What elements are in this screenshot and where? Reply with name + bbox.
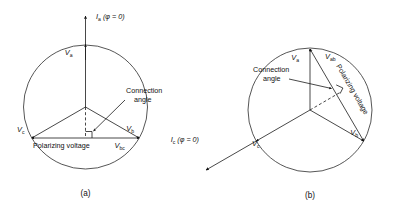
panel-b-right-angle-marker — [336, 85, 343, 94]
panel-b-label-va: Va — [291, 53, 299, 63]
panel-b-current-label: Ic (φ = 0) — [171, 135, 199, 145]
panel-b-phasor-vc — [256, 110, 310, 141]
panel-a-current-label: Ia (φ = 0) — [96, 12, 125, 22]
phasor-diagram-svg: Ia (φ = 0) Va Vb Vc Vbc Polarizing volta… — [0, 0, 397, 206]
panel-b-perpendicular-dashed — [310, 92, 341, 110]
panel-a-caption: (a) — [80, 189, 90, 198]
panel-b-caption: (b) — [305, 191, 315, 200]
panel-a-connection-angle-line1: Connection — [126, 86, 162, 95]
panel-b-connection-angle-line1: Connection — [253, 65, 289, 74]
panel-b-connection-angle-line2: angle — [263, 74, 281, 83]
figure-container: Ia (φ = 0) Va Vb Vc Vbc Polarizing volta… — [0, 0, 397, 206]
panel-a-label-vbc: Vbc — [115, 141, 126, 151]
panel-a: Ia (φ = 0) Va Vb Vc Vbc Polarizing volta… — [17, 12, 162, 198]
panel-b-current-axis-ic — [206, 140, 258, 170]
panel-b-label-vab: Vab — [325, 52, 336, 62]
panel-a-right-angle-marker — [86, 132, 93, 139]
panel-b-polarizing-voltage-label: Polarizing voltage — [334, 62, 370, 116]
panel-a-label-vc: Vc — [17, 125, 25, 135]
panel-a-label-vb: Vb — [126, 124, 134, 134]
panel-a-polarizing-voltage-label: Polarizing voltage — [33, 141, 90, 150]
panel-a-connection-angle-line2: angle — [134, 95, 152, 104]
panel-a-connection-angle-leader — [94, 100, 126, 131]
panel-a-label-va: Va — [65, 48, 73, 58]
panel-a-phasor-vc — [32, 107, 86, 138]
panel-b: Va Vab Vb Vc Ic (φ = 0) Polarizing volta… — [171, 48, 372, 200]
panel-b-label-vc: Vc — [252, 139, 260, 149]
